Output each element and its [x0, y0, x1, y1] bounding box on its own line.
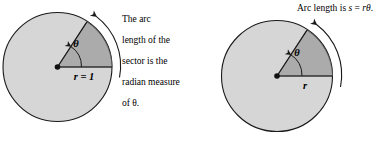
general-circle-caption: Arc length is s = rθ.	[297, 3, 386, 13]
general-circle-diagram: θ r	[222, 21, 342, 132]
general-circle-center-dot	[274, 73, 280, 79]
radian-measure-figure: θ r = 1 θ r	[0, 0, 386, 141]
unit-circle-caption: The arc length of the sector is the radi…	[122, 4, 192, 118]
caption-line-1: The arc	[122, 14, 192, 24]
caption-period: .	[371, 3, 373, 13]
unit-circle-radius-label: r = 1	[74, 71, 95, 82]
caption-text-prefix: Arc length is	[297, 3, 348, 13]
unit-circle-diagram: θ r = 1	[3, 13, 121, 122]
caption-equals: =	[352, 3, 362, 13]
caption-line-5: of θ.	[122, 98, 192, 108]
unit-circle-center-dot	[55, 64, 61, 70]
unit-circle-theta-label: θ	[73, 38, 79, 49]
caption-line-3: sector is the	[122, 56, 192, 66]
general-circle-theta-label: θ	[294, 47, 300, 58]
caption-line-4: radian measure	[122, 77, 192, 87]
caption-line-2: length of the	[122, 35, 192, 45]
